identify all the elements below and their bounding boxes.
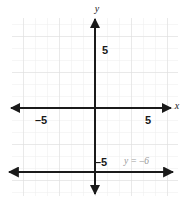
y-tick-label-negative-5: –5 (95, 156, 107, 168)
x-tick-label-5: 5 (145, 114, 151, 126)
coordinate-plane-figure: x y –5 5 5 –5 y = –6 (0, 0, 195, 204)
x-axis-label: x (174, 100, 180, 111)
y-axis-label: y (94, 3, 100, 14)
y-tick-label-5: 5 (102, 44, 108, 56)
x-tick-label-negative-5: –5 (35, 114, 47, 126)
line-equation-label: y = –6 (123, 156, 149, 166)
graph-canvas: x y –5 5 5 –5 y = –6 (0, 0, 195, 204)
